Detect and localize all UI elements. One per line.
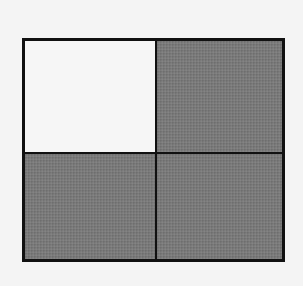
grid-cell-bottom-left <box>25 154 155 259</box>
grid-cell-top-left <box>25 41 155 152</box>
grid-cell-top-right <box>157 41 282 152</box>
grid-cell-bottom-right <box>157 154 282 259</box>
fraction-grid <box>22 38 285 262</box>
diagram-canvas <box>0 0 303 286</box>
